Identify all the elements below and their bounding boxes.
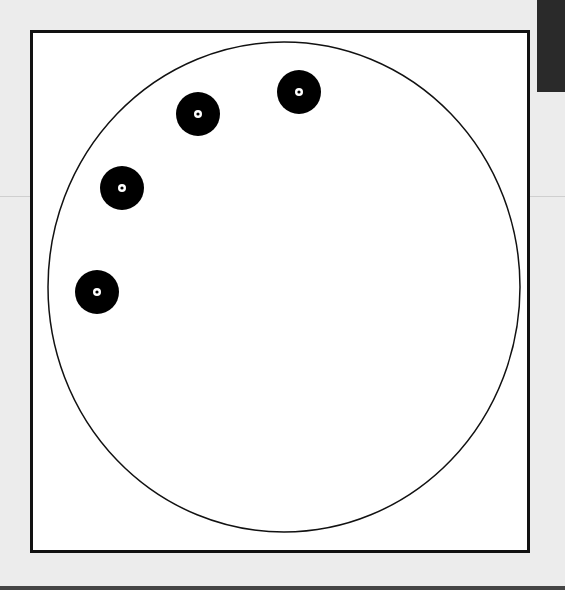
disc-1 [277, 70, 321, 114]
disc-3 [100, 166, 144, 210]
diagram-canvas [0, 0, 565, 590]
disc-2 [176, 92, 220, 136]
disc-4 [75, 270, 119, 314]
outer-circle [48, 42, 520, 532]
